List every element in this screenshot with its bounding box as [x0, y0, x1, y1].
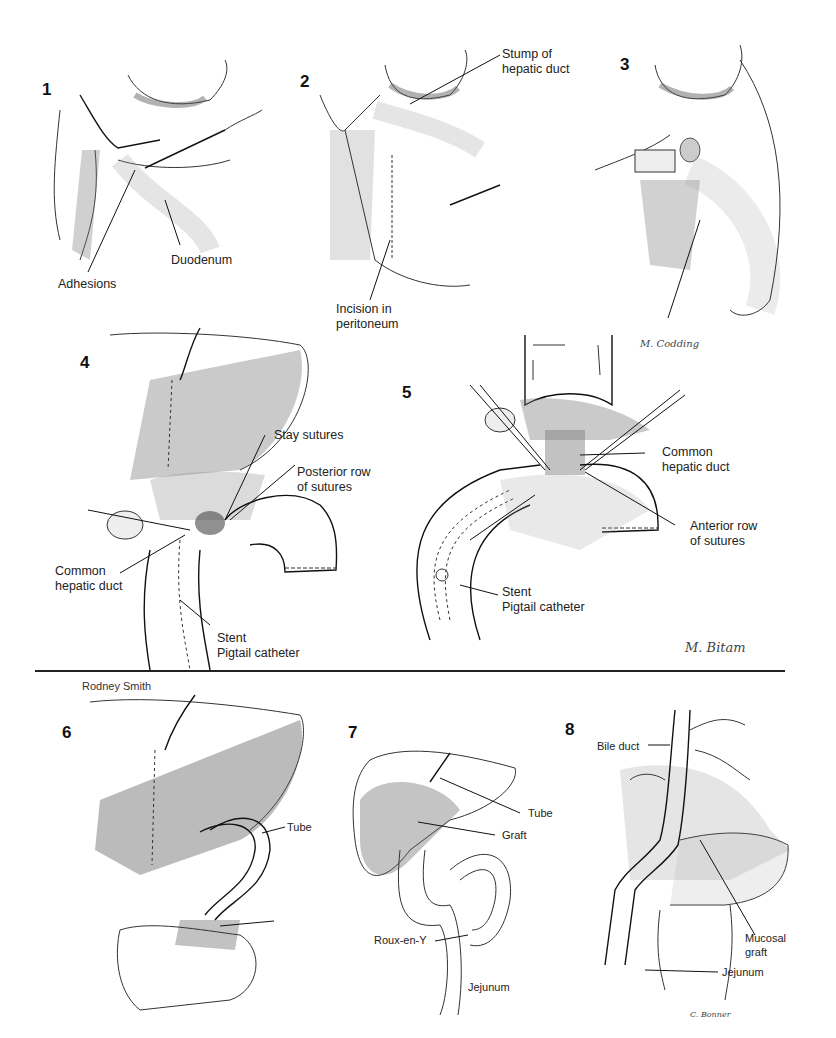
label-incision-in-peritoneum-1: Incision in [336, 302, 392, 317]
label-duodenum: Duodenum [171, 253, 232, 268]
illustration-cholangiography [540, 0, 836, 360]
label-stay-sutures: Stay sutures [274, 428, 343, 443]
label-stent-2: Pigtail catheter [502, 600, 585, 615]
artist-signature: M. Bitam [685, 640, 746, 655]
label-stent-2: Pigtail catheter [217, 646, 300, 661]
label-mucosal-graft-2: graft [745, 946, 767, 959]
label-common-hepatic-duct-2: hepatic duct [662, 460, 729, 475]
label-posterior-row-2: of sutures [297, 480, 352, 495]
label-common-hepatic-duct-1: Common [55, 564, 106, 579]
section-divider [35, 670, 785, 672]
label-anterior-row-2: of sutures [690, 534, 745, 549]
label-graft: Graft [502, 829, 526, 842]
label-roux-en-y: Roux-en-Y [374, 934, 427, 947]
label-jejunum: Jejunum [722, 966, 764, 979]
illustration-tube-drainage [0, 690, 320, 1038]
label-common-hepatic-duct-1: Common [662, 445, 713, 460]
artist-signature: C. Bonner [690, 1010, 730, 1019]
panel-4: 4 Stay sutures Posterior row of sutures … [0, 320, 380, 670]
label-jejunum: Jejunum [468, 981, 510, 994]
label-bile-duct: Bile duct [597, 740, 639, 753]
illustration-adhesion-dissection [0, 0, 280, 320]
label-anterior-row-1: Anterior row [690, 519, 757, 534]
panel-5: 5 Common hepatic duct Anterior row of su… [380, 320, 836, 670]
label-posterior-row-1: Posterior row [297, 465, 371, 480]
panel-2: 2 Stump of hepatic duct Incision in peri… [270, 0, 550, 340]
illustration-mucosal-graft [550, 680, 836, 1038]
panel-8: 8 Bile duct Mucosal graft Jejunum C. Bon… [550, 680, 836, 1038]
label-stent-1: Stent [502, 585, 531, 600]
panel-1: 1 Adhesions Duodenum [0, 0, 280, 320]
illustration-anterior-anastomosis [380, 320, 836, 670]
panel-7: 7 Tube Graft Roux-en-Y Jejunum [300, 690, 550, 1038]
label-tube: Tube [528, 807, 553, 820]
panel-6: 6 Tube [0, 690, 320, 1038]
panel-3: 3 M. Codding [540, 0, 836, 360]
illustration-posterior-anastomosis [0, 320, 380, 670]
label-adhesions: Adhesions [58, 277, 116, 292]
label-common-hepatic-duct-2: hepatic duct [55, 579, 122, 594]
illustration-roux-en-y-graft [300, 690, 550, 1038]
label-mucosal-graft-1: Mucosal [745, 932, 786, 945]
label-stent-1: Stent [217, 631, 246, 646]
